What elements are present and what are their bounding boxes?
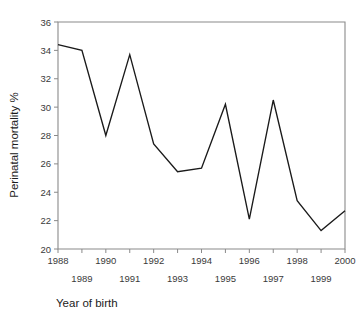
x-tick-label: 1995 [215, 273, 236, 284]
x-tick-label: 1998 [287, 255, 308, 266]
x-tick-label: 1993 [167, 273, 188, 284]
x-axis-ticks: 1988198919901991199219931994199519961997… [47, 249, 355, 284]
mortality-line [58, 45, 345, 231]
y-tick-label: 22 [40, 215, 51, 226]
y-tick-label: 26 [40, 158, 51, 169]
x-axis-title: Year of birth [56, 297, 118, 309]
y-tick-label: 32 [40, 73, 51, 84]
x-tick-label: 2000 [334, 255, 355, 266]
x-tick-label: 1994 [191, 255, 212, 266]
x-tick-label: 1989 [71, 273, 92, 284]
y-tick-label: 20 [40, 244, 51, 255]
y-tick-label: 34 [40, 45, 51, 56]
chart-figure: 363432302826242220 198819891990199119921… [0, 0, 364, 324]
x-tick-label: 1997 [263, 273, 284, 284]
axes [58, 22, 345, 249]
y-axis-title: Perinatal mortality % [8, 92, 20, 197]
x-tick-label: 1990 [95, 255, 116, 266]
y-tick-label: 28 [40, 130, 51, 141]
x-tick-label: 1988 [47, 255, 68, 266]
y-axis-ticks: 363432302826242220 [40, 17, 58, 255]
axis-frame [58, 22, 345, 249]
perinatal-mortality-line-chart: 363432302826242220 198819891990199119921… [0, 0, 364, 324]
x-tick-label: 1999 [311, 273, 332, 284]
y-tick-label: 36 [40, 17, 51, 28]
y-tick-label: 30 [40, 102, 51, 113]
x-tick-label: 1996 [239, 255, 260, 266]
x-tick-label: 1992 [143, 255, 164, 266]
y-tick-label: 24 [40, 187, 51, 198]
data-series [58, 45, 345, 231]
x-tick-label: 1991 [119, 273, 140, 284]
